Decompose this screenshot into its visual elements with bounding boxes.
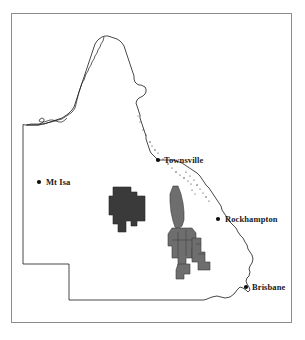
bowen-basin-north-lobe [170,186,184,229]
bowen-basin-south-tail [176,264,190,279]
city-label-townsville: Townsville [164,156,203,165]
city-marker-mt-isa [37,180,41,184]
city-marker-townsville [156,158,160,162]
city-label-rockhampton: Rockhampton [225,215,278,224]
city-marker-rockhampton [216,217,220,221]
galilee-basin-polygon [109,187,145,232]
coastline-detail-north [26,37,104,125]
queensland-outline [23,36,253,300]
city-label-brisbane: Brisbane [252,283,285,292]
bowen-basin-region [168,186,210,279]
state-boundary-path [23,36,253,300]
city-label-mt-isa: Mt Isa [46,178,70,187]
galilee-basin-region [109,187,145,232]
city-marker-brisbane [244,285,248,289]
queensland-coal-basin-map: Townsville Rockhampton Brisbane Mt Isa [0,0,305,340]
